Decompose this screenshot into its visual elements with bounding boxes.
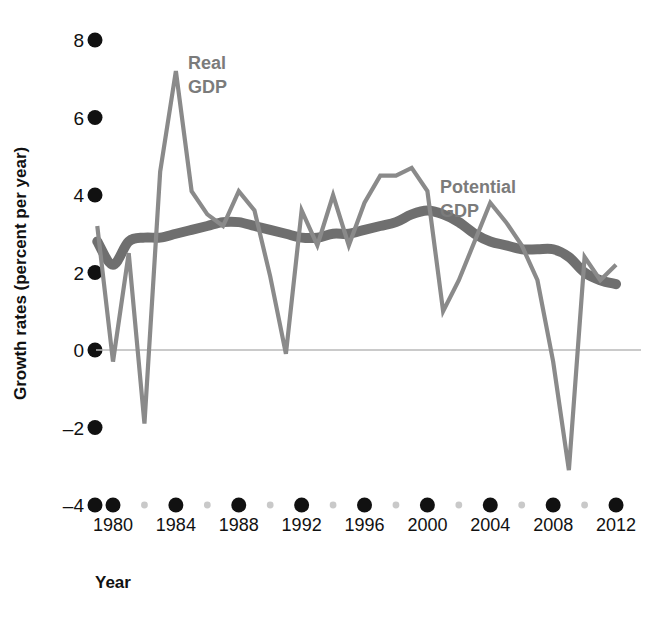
x-tick-label: 2008: [533, 515, 573, 535]
x-tick-dot-major: [231, 498, 246, 513]
x-axis-tick-dots: [106, 498, 624, 513]
chart-figure: Growth rates (percent per year) 86420–2–…: [0, 0, 660, 622]
y-tick-dot: [88, 420, 103, 435]
x-tick-dot-minor: [330, 502, 337, 509]
y-tick-label: 8: [73, 30, 84, 51]
y-axis-title: Growth rates (percent per year): [11, 147, 30, 400]
x-tick-dot-minor: [581, 502, 588, 509]
y-tick-label: 0: [73, 340, 84, 361]
real-gdp-line: [97, 71, 616, 470]
y-tick-dot: [88, 498, 103, 513]
x-tick-label: 1984: [156, 515, 196, 535]
x-tick-label: 1992: [282, 515, 322, 535]
x-tick-dot-major: [357, 498, 372, 513]
potential-gdp-label-line2: GDP: [440, 201, 479, 221]
x-tick-dot-minor: [518, 502, 525, 509]
y-tick-label: 2: [73, 263, 84, 284]
growth-rates-line-chart: Growth rates (percent per year) 86420–2–…: [0, 0, 660, 622]
y-tick-dot: [88, 188, 103, 203]
x-axis-tick-labels: 198019841988199219962000200420082012: [93, 515, 636, 535]
x-axis-title: Year: [95, 573, 131, 592]
y-tick-label: –2: [63, 418, 84, 439]
x-tick-dot-major: [168, 498, 183, 513]
y-axis-tick-labels: 86420–2–4: [63, 30, 85, 516]
y-tick-dot: [88, 33, 103, 48]
real-gdp-label-line2: GDP: [188, 77, 227, 97]
y-tick-label: –4: [63, 495, 85, 516]
x-tick-label: 2004: [470, 515, 510, 535]
x-tick-dot-major: [609, 498, 624, 513]
real-gdp-label-line1: Real: [188, 53, 226, 73]
x-tick-dot-minor: [267, 502, 274, 509]
y-axis-tick-dots: [88, 33, 103, 513]
x-tick-dot-major: [106, 498, 121, 513]
x-tick-label: 2012: [596, 515, 636, 535]
x-tick-dot-minor: [393, 502, 400, 509]
y-tick-label: 4: [73, 185, 84, 206]
x-tick-label: 1980: [93, 515, 133, 535]
x-tick-label: 2000: [407, 515, 447, 535]
x-tick-dot-major: [420, 498, 435, 513]
x-tick-label: 1988: [219, 515, 259, 535]
y-tick-dot: [88, 110, 103, 125]
x-tick-label: 1996: [344, 515, 384, 535]
x-tick-dot-major: [546, 498, 561, 513]
y-tick-label: 6: [73, 108, 84, 129]
x-tick-dot-major: [294, 498, 309, 513]
x-tick-dot-minor: [141, 502, 148, 509]
potential-gdp-label-line1: Potential: [440, 177, 516, 197]
x-tick-dot-major: [483, 498, 498, 513]
x-tick-dot-minor: [204, 502, 211, 509]
x-tick-dot-minor: [455, 502, 462, 509]
